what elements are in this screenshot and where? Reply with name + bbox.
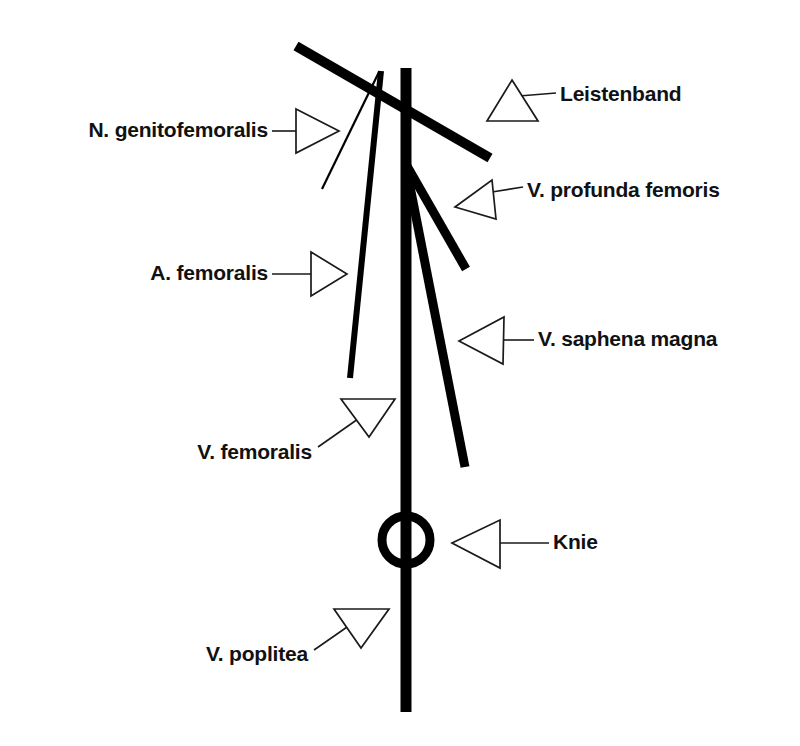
leader-line	[519, 93, 556, 96]
arrow-up-icon	[487, 80, 538, 121]
arrow-left-icon	[459, 317, 504, 364]
callout-v-saphena-magna: V. saphena magna	[459, 317, 718, 364]
callout-a-femoralis: A. femoralis	[150, 252, 347, 296]
callout-v-poplitea: V. poplitea	[206, 609, 389, 665]
callout-v-femoralis: V. femoralis	[197, 399, 395, 463]
anatomical-diagram: N. genitofemoralis Leistenband V. profun…	[0, 0, 800, 746]
callout-n-genitofemoralis: N. genitofemoralis	[88, 109, 339, 153]
label-n-genitofemoralis: N. genitofemoralis	[88, 118, 268, 141]
diagram-canvas: N. genitofemoralis Leistenband V. profun…	[0, 0, 800, 746]
label-leistenband: Leistenband	[560, 82, 681, 105]
leader-line	[314, 625, 350, 650]
label-v-profunda-femoris: V. profunda femoris	[527, 178, 720, 201]
label-v-poplitea: V. poplitea	[206, 642, 309, 665]
femoral-artery-line	[350, 71, 381, 378]
leader-line	[492, 187, 523, 192]
arrow-left-icon	[455, 180, 496, 219]
label-a-femoralis: A. femoralis	[150, 261, 268, 284]
inguinal-ligament-line	[296, 46, 490, 158]
arrow-right-icon	[296, 109, 339, 153]
leader-line	[318, 419, 358, 447]
label-knie: Knie	[553, 530, 598, 553]
label-v-saphena-magna: V. saphena magna	[538, 327, 718, 350]
arrow-right-icon	[311, 252, 347, 296]
callout-knie: Knie	[452, 520, 598, 568]
callout-leistenband: Leistenband	[487, 80, 681, 121]
arrow-down-icon	[334, 609, 389, 648]
arrow-down-icon	[341, 399, 395, 437]
structure-group	[296, 46, 490, 712]
label-v-femoralis: V. femoralis	[197, 440, 312, 463]
callout-v-profunda-femoris: V. profunda femoris	[455, 178, 720, 219]
arrow-left-icon	[452, 520, 500, 568]
